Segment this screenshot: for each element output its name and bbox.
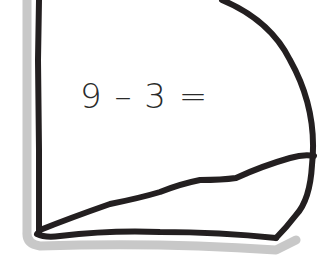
- shape-right-curve: [222, 0, 313, 238]
- shape-left-edge: [38, 0, 39, 234]
- shape-shadow: [27, 0, 296, 250]
- shape-bottom-edge: [37, 232, 276, 239]
- shape-wavy-line: [40, 155, 314, 230]
- worksheet-shape: [0, 0, 320, 256]
- math-equation: 9 – 3 =: [80, 76, 208, 116]
